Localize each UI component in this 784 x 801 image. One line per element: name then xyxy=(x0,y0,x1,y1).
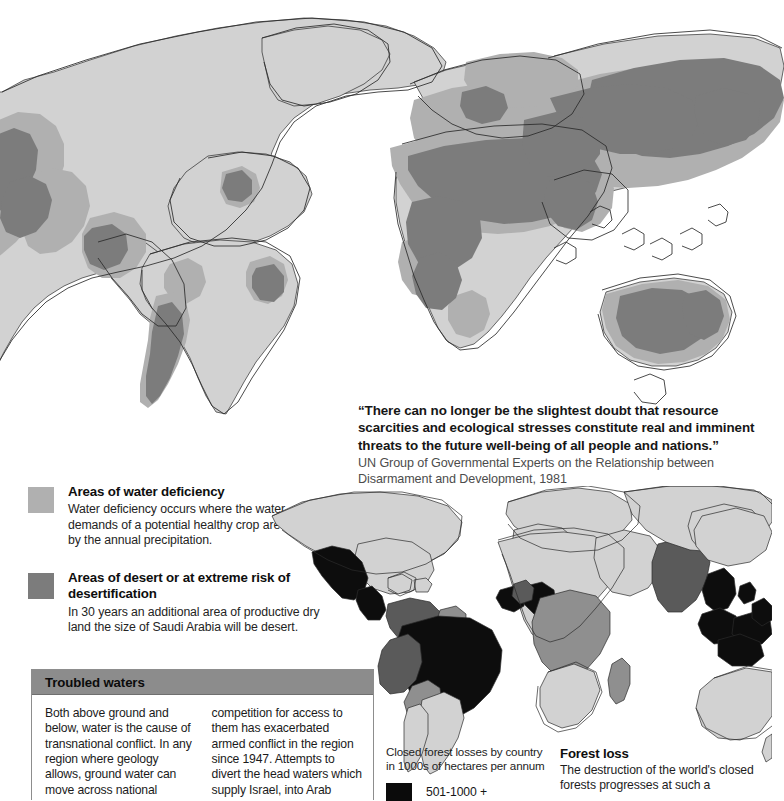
quote-source: UN Group of Governmental Experts on the … xyxy=(358,455,758,487)
forest-legend-caption-line-2: in 1000s of hectares per annum xyxy=(386,759,545,772)
troubled-waters-header: Troubled waters xyxy=(32,670,373,695)
quote-block: “There can no longer be the slightest do… xyxy=(358,402,758,488)
forest-legend-caption-line-1: Closed forest losses by country xyxy=(386,745,542,758)
troubled-waters-column-2: competition for access to them has exace… xyxy=(212,706,364,800)
forest-loss-note-title: Forest loss xyxy=(560,746,765,761)
forest-legend-key-label: 501-1000 + xyxy=(426,785,487,799)
forest-legend-key: 501-1000 + xyxy=(386,783,551,801)
forest-loss-note-body: The destruction of the world's closed fo… xyxy=(560,763,765,794)
quote-text: “There can no longer be the slightest do… xyxy=(358,402,758,454)
forest-loss-note: Forest loss The destruction of the world… xyxy=(560,746,765,794)
world-map-water-deficiency xyxy=(0,0,784,416)
forest-legend-swatch xyxy=(386,783,412,801)
troubled-waters-columns: Both above ground and below, water is th… xyxy=(32,695,373,800)
legend-swatch-water-deficiency xyxy=(28,487,54,513)
legend-swatch-desert xyxy=(28,573,54,599)
troubled-waters-column-1: Both above ground and below, water is th… xyxy=(45,706,197,800)
troubled-waters-title: Troubled waters xyxy=(45,675,145,690)
map-water-layers xyxy=(0,18,784,414)
forest-legend-caption: Closed forest losses by country in 1000s… xyxy=(386,745,551,773)
forest-loss-legend: Closed forest losses by country in 1000s… xyxy=(386,745,551,801)
troubled-waters-box: Troubled waters Both above ground and be… xyxy=(31,669,374,800)
